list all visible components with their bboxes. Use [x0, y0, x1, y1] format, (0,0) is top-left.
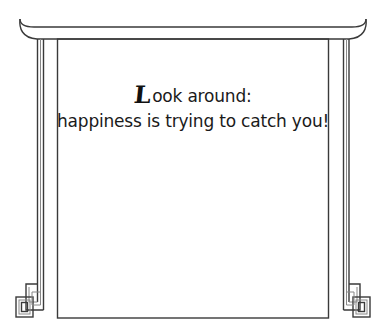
right-post — [344, 39, 350, 310]
quote-text: Look around: happiness is trying to catc… — [57, 84, 329, 134]
quote-line-2: happiness is trying to catch you! — [57, 109, 329, 134]
quote-line-1: Look around: — [57, 84, 329, 109]
scroll-panel — [58, 39, 329, 318]
quote-line-1-text: ook around: — [152, 86, 251, 106]
right-knot-ornament — [344, 284, 371, 317]
scroll-frame — [0, 0, 384, 333]
top-beam — [20, 19, 366, 39]
drop-cap-letter: L — [133, 85, 152, 105]
left-knot-ornament — [16, 284, 44, 317]
left-post — [38, 39, 44, 310]
